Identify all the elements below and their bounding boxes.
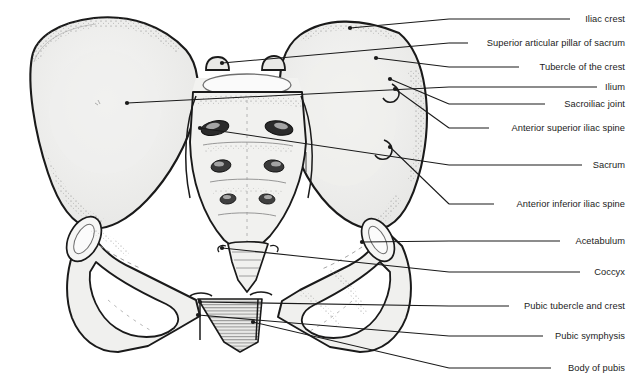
pelvis-anatomy-figure: Iliac crestSuperior articular pillar of … — [0, 0, 631, 391]
leader-dot-tubercle-of-the-crest — [374, 56, 378, 60]
label-coccyx: Coccyx — [594, 267, 625, 277]
leader-dot-coccyx — [220, 246, 224, 250]
leader-dot-pubic-tubercle-and-crest — [198, 300, 202, 304]
label-sacrum: Sacrum — [593, 160, 625, 170]
label-pubic-symphysis: Pubic symphysis — [555, 331, 625, 341]
label-tubercle-of-the-crest: Tubercle of the crest — [540, 62, 625, 72]
leader-dot-sacroiliac-joint — [388, 77, 392, 81]
label-sacroiliac-joint: Sacroiliac joint — [564, 99, 625, 109]
label-acetabulum: Acetabulum — [575, 236, 625, 246]
leader-dot-acetabulum — [360, 240, 364, 244]
label-pubic-tubercle-and-crest: Pubic tubercle and crest — [524, 301, 625, 311]
leader-dot-anterior-inferior-iliac-spine — [388, 145, 392, 149]
label-anterior-inferior-iliac-spine: Anterior inferior iliac spine — [517, 199, 625, 209]
label-body-of-pubis: Body of pubis — [568, 363, 625, 373]
leader-dot-anterior-superior-iliac-spine — [393, 87, 397, 91]
label-superior-articular-pillar: Superior articular pillar of sacrum — [487, 38, 625, 48]
leader-dot-superior-articular-pillar — [220, 61, 224, 65]
leader-dot-sacrum — [198, 126, 202, 130]
leader-dot-body-of-pubis — [251, 320, 255, 324]
leader-dot-pubic-symphysis — [196, 313, 200, 317]
pelvis-illustration — [0, 0, 631, 391]
leader-dot-iliac-crest — [348, 26, 352, 30]
label-anterior-superior-iliac-spine: Anterior superior iliac spine — [511, 123, 625, 133]
label-iliac-crest: Iliac crest — [585, 14, 625, 24]
leader-dot-ilium — [125, 101, 129, 105]
label-ilium: Ilium — [605, 82, 625, 92]
